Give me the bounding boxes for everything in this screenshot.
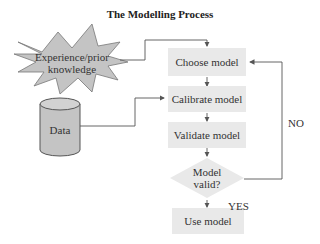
experience-label: Experience/prior knowledge	[22, 51, 122, 75]
step-use-model-label: Use model	[184, 215, 231, 227]
experience-label-line2: knowledge	[22, 63, 122, 75]
step-calibrate-model-label: Calibrate model	[172, 93, 243, 105]
decision-label-line1: Model	[177, 166, 237, 178]
step-calibrate-model: Calibrate model	[168, 86, 246, 112]
experience-label-line1: Experience/prior	[22, 51, 122, 63]
step-validate-model: Validate model	[168, 122, 246, 148]
branch-yes-label: YES	[228, 200, 249, 212]
flow-connectors	[0, 0, 320, 244]
step-choose-model: Choose model	[168, 48, 246, 76]
step-validate-model-label: Validate model	[174, 129, 240, 141]
branch-no-label: NO	[288, 117, 304, 129]
step-choose-model-label: Choose model	[175, 56, 238, 68]
data-label: Data	[40, 124, 80, 136]
connector-no-loop	[244, 62, 282, 179]
connector-data-to-calibrate	[80, 98, 164, 126]
decision-label-line2: valid?	[177, 178, 237, 190]
decision-label: Model valid?	[177, 166, 237, 190]
